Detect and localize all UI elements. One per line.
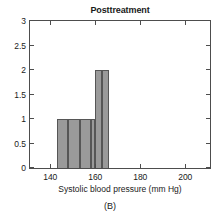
chart-title: Posttreatment	[29, 5, 211, 16]
y-tick-label: 0.5	[0, 140, 26, 149]
y-tick-mark-right	[206, 118, 210, 119]
y-tick-label: 3	[0, 17, 26, 26]
histogram-bar	[57, 119, 68, 168]
x-tick-mark	[95, 164, 96, 168]
x-axis-tick-labels: 140160180200	[29, 172, 211, 184]
y-tick-mark-right	[206, 45, 210, 46]
x-tick-label: 140	[30, 172, 70, 182]
histogram-bar	[68, 119, 79, 168]
y-tick-mark	[30, 118, 34, 119]
y-tick-label: 1	[0, 115, 26, 124]
x-tick-mark-top	[185, 21, 186, 25]
x-tick-mark	[185, 164, 186, 168]
x-tick-mark	[50, 164, 51, 168]
y-tick-mark-right	[206, 143, 210, 144]
plot-inner	[30, 21, 210, 168]
y-tick-mark	[30, 167, 34, 168]
figure-panel: Posttreatment 00.511.522.53 140160180200…	[0, 0, 220, 222]
y-tick-label: 1.5	[0, 91, 26, 100]
x-tick-mark-top	[140, 21, 141, 25]
x-axis-label: Systolic blood pressure (mm Hg)	[20, 184, 220, 194]
y-tick-mark-right	[206, 69, 210, 70]
y-axis-tick-labels: 00.511.522.53	[0, 20, 26, 169]
y-tick-mark	[30, 94, 34, 95]
x-tick-label: 160	[75, 172, 115, 182]
x-tick-mark-top	[50, 21, 51, 25]
y-tick-label: 0	[0, 164, 26, 173]
x-tick-label: 180	[120, 172, 160, 182]
y-tick-mark	[30, 69, 34, 70]
plot-area	[29, 20, 211, 169]
x-tick-label: 200	[165, 172, 205, 182]
y-tick-mark	[30, 143, 34, 144]
x-tick-mark-top	[95, 21, 96, 25]
histogram-bar	[80, 119, 91, 168]
panel-caption: (B)	[0, 201, 220, 212]
histogram-bar	[102, 70, 109, 168]
y-tick-mark-right	[206, 167, 210, 168]
y-tick-mark	[30, 45, 34, 46]
y-tick-mark-right	[206, 94, 210, 95]
x-tick-mark	[140, 164, 141, 168]
histogram-bar	[95, 70, 102, 168]
y-tick-label: 2.5	[0, 42, 26, 51]
y-tick-label: 2	[0, 66, 26, 75]
